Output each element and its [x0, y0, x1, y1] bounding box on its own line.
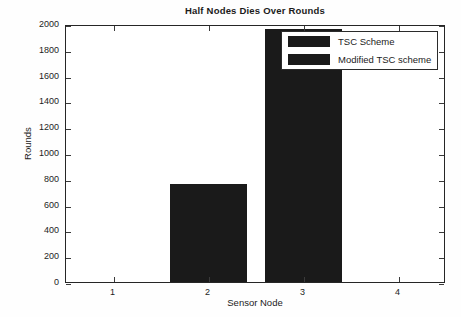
- y-tick-label: 800: [0, 174, 59, 184]
- x-tick-label: 4: [383, 287, 413, 297]
- x-tick-mark: [209, 277, 210, 282]
- x-tick-label: 2: [193, 287, 223, 297]
- bar: [170, 184, 248, 282]
- y-tick-mark: [66, 26, 71, 27]
- y-tick-label: 1800: [0, 45, 59, 55]
- y-tick-label: 1200: [0, 122, 59, 132]
- x-tick-label: 3: [288, 287, 318, 297]
- y-tick-mark: [439, 181, 444, 182]
- x-tick-mark: [114, 26, 115, 31]
- y-tick-mark: [439, 129, 444, 130]
- y-axis-label: Rounds: [22, 104, 33, 184]
- y-tick-mark: [66, 52, 71, 53]
- y-tick-mark: [66, 103, 71, 104]
- legend-item-modified-tsc-scheme[interactable]: Modified TSC scheme: [282, 51, 437, 68]
- y-tick-label: 2000: [0, 19, 59, 29]
- y-tick-mark: [439, 284, 444, 285]
- legend-item-tsc-scheme[interactable]: TSC Scheme: [282, 33, 437, 50]
- y-tick-mark: [439, 258, 444, 259]
- x-tick-mark: [114, 277, 115, 282]
- legend-label: TSC Scheme: [338, 36, 395, 47]
- legend-label: Modified TSC scheme: [338, 54, 431, 65]
- y-tick-label: 1400: [0, 96, 59, 106]
- y-tick-mark: [439, 155, 444, 156]
- legend-swatch-icon: [288, 54, 330, 65]
- chart-title: Half Nodes Dies Over Rounds: [65, 5, 445, 16]
- y-tick-label: 600: [0, 200, 59, 210]
- x-tick-label: 1: [98, 287, 128, 297]
- y-tick-mark: [439, 103, 444, 104]
- y-tick-mark: [439, 52, 444, 53]
- y-tick-mark: [66, 181, 71, 182]
- y-tick-label: 400: [0, 225, 59, 235]
- y-tick-mark: [66, 258, 71, 259]
- y-tick-mark: [66, 155, 71, 156]
- y-tick-mark: [439, 78, 444, 79]
- y-tick-mark: [66, 232, 71, 233]
- chart-legend: TSC Scheme Modified TSC scheme: [281, 31, 438, 70]
- y-tick-mark: [66, 78, 71, 79]
- legend-swatch-icon: [288, 36, 330, 47]
- y-tick-mark: [66, 284, 71, 285]
- y-tick-mark: [66, 207, 71, 208]
- x-axis-label: Sensor Node: [65, 297, 445, 308]
- y-tick-label: 1000: [0, 148, 59, 158]
- x-tick-mark: [209, 26, 210, 31]
- y-tick-mark: [439, 26, 444, 27]
- figure-canvas: Half Nodes Dies Over Rounds Sensor Node …: [0, 0, 461, 317]
- y-tick-mark: [439, 207, 444, 208]
- y-tick-label: 1600: [0, 71, 59, 81]
- y-tick-label: 0: [0, 277, 59, 287]
- x-tick-mark: [304, 277, 305, 282]
- y-tick-label: 200: [0, 251, 59, 261]
- y-tick-mark: [66, 129, 71, 130]
- x-tick-mark: [399, 277, 400, 282]
- y-tick-mark: [439, 232, 444, 233]
